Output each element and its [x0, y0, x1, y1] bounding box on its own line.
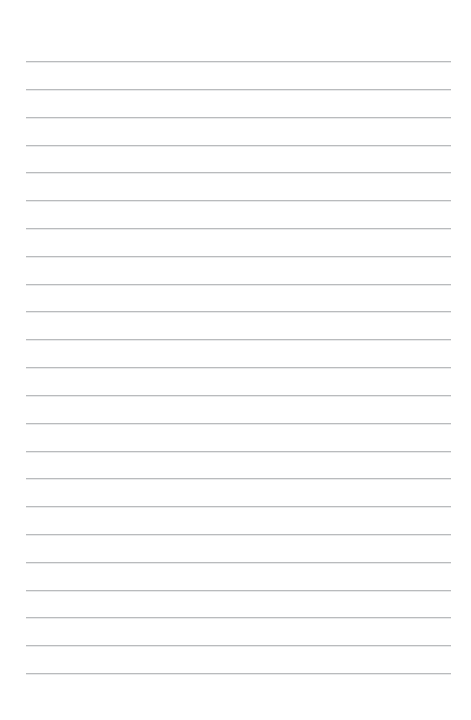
rule-line	[26, 673, 451, 674]
writing-area[interactable]	[26, 61, 451, 673]
lined-paper-page	[0, 0, 471, 720]
